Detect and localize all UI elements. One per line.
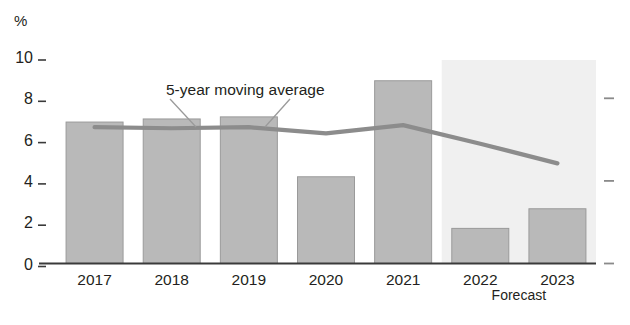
y-axis-unit-label: % (14, 12, 27, 29)
y-tick-label: 0 (24, 256, 33, 273)
x-tick-label-2018: 2018 (154, 271, 188, 288)
forecast-caption: Forecast (492, 287, 547, 303)
bar-2023 (529, 209, 586, 264)
chart-container: % 0246810 5-year moving average 20172018… (0, 0, 630, 325)
y-tick-label: 10 (15, 49, 33, 66)
y-tick-label: 6 (24, 132, 33, 149)
right-axis-ticks (604, 98, 614, 263)
bar-2018 (143, 119, 200, 264)
x-tick-label-2019: 2019 (232, 271, 266, 288)
annotation-moving-average-label: 5-year moving average (166, 81, 325, 98)
x-axis-labels: 2017201820192020202120222023 (77, 271, 574, 288)
y-tick-label: 2 (24, 214, 33, 231)
x-tick-label-2020: 2020 (309, 271, 344, 288)
bar-2017 (66, 122, 123, 263)
x-tick-label-2021: 2021 (386, 271, 420, 288)
bar-line-chart: % 0246810 5-year moving average 20172018… (0, 0, 630, 325)
bar-2020 (298, 177, 355, 264)
bar-2022 (452, 228, 509, 263)
x-tick-label-2022: 2022 (463, 271, 497, 288)
bar-2019 (220, 117, 277, 264)
bar-2021 (375, 81, 432, 264)
y-tick-label: 4 (24, 173, 33, 190)
y-tick-label: 8 (24, 90, 33, 107)
x-tick-label-2023: 2023 (540, 271, 574, 288)
x-tick-label-2017: 2017 (77, 271, 111, 288)
y-axis-ticks: 0246810 (15, 49, 46, 273)
